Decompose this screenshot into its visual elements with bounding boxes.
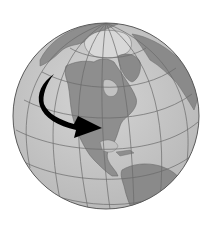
globe-figure [0,0,212,225]
globe-illustration [0,0,212,225]
